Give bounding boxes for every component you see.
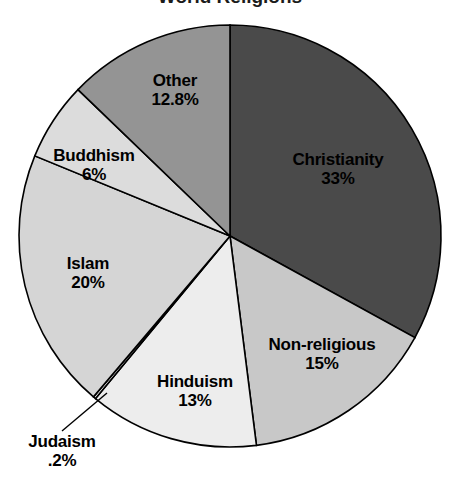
pie-label-non-religious-value: 15%	[246, 354, 398, 373]
pie-label-christianity-value: 33%	[268, 169, 408, 188]
pie-label-judaism-value: .2%	[6, 451, 118, 470]
judaism-leader-line	[62, 393, 107, 431]
pie-label-buddhism: Buddhism 6%	[28, 146, 160, 184]
pie-label-non-religious: Non-religious 15%	[246, 335, 398, 373]
pie-label-non-religious-name: Non-religious	[246, 335, 398, 354]
pie-label-other: Other 12.8%	[116, 71, 234, 109]
pie-label-hinduism-value: 13%	[140, 391, 250, 410]
pie-label-other-value: 12.8%	[116, 90, 234, 109]
pie-label-judaism: Judaism .2%	[6, 432, 118, 470]
pie-label-islam: Islam 20%	[38, 254, 138, 292]
pie-label-christianity: Christianity 33%	[268, 150, 408, 188]
pie-label-buddhism-name: Buddhism	[28, 146, 160, 165]
pie-label-islam-name: Islam	[38, 254, 138, 273]
pie-label-other-name: Other	[116, 71, 234, 90]
pie-label-judaism-name: Judaism	[6, 432, 118, 451]
pie-label-hinduism-name: Hinduism	[140, 372, 250, 391]
pie-chart-figure: World Religions Christianity 33% Non-rel…	[0, 0, 460, 494]
pie-label-christianity-name: Christianity	[268, 150, 408, 169]
pie-label-hinduism: Hinduism 13%	[140, 372, 250, 410]
pie-label-buddhism-value: 6%	[28, 165, 160, 184]
pie-label-islam-value: 20%	[38, 273, 138, 292]
